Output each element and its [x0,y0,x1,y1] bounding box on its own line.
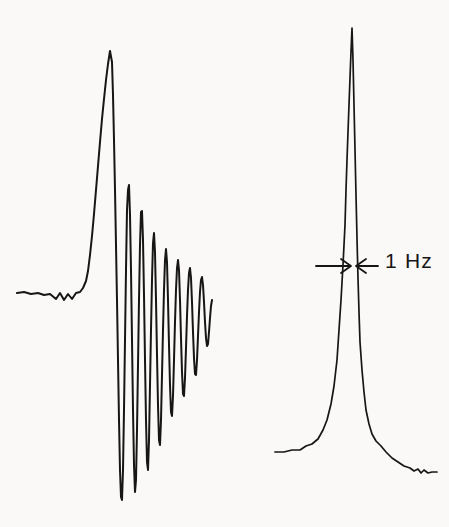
linewidth-label: 1 Hz [385,250,433,271]
linewidth-arrow-group [316,259,378,273]
nmr-spectra-figure: 1 Hz [0,0,449,527]
spectra-plot-area [0,0,449,527]
left-spectrum-trace [17,51,212,500]
